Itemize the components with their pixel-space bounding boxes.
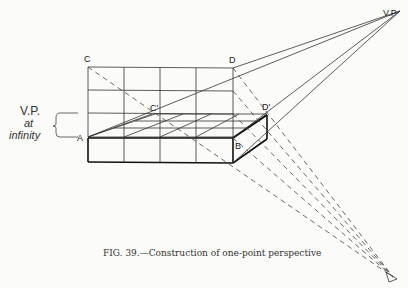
- diagonal-dashed-lines: [88, 67, 393, 277]
- label-c-prime: C': [150, 103, 158, 113]
- label-d-prime: D': [262, 102, 270, 112]
- label-a: A: [77, 133, 83, 143]
- figure-caption: FIG. 39.—Construction of one-point persp…: [103, 248, 321, 258]
- label-b: B: [235, 141, 241, 151]
- vp-infinity-line3: infinity: [9, 129, 42, 141]
- label-d: D: [229, 55, 236, 65]
- bracket-icon: [53, 113, 78, 137]
- vanishing-lines: [88, 11, 400, 163]
- vp-infinity-line2: at: [24, 117, 34, 129]
- arrowhead-icon: [386, 272, 397, 282]
- perspective-diagram: C D C' D' A B V.P V.P. at infinity FIG. …: [0, 0, 408, 288]
- picture-plane-grid: [88, 67, 233, 137]
- label-vp: V.P: [383, 8, 397, 18]
- slab-front: [88, 115, 267, 163]
- label-c: C: [84, 54, 91, 64]
- vp-infinity-line1: V.P.: [20, 104, 40, 118]
- slab-front-divisions: [124, 138, 196, 163]
